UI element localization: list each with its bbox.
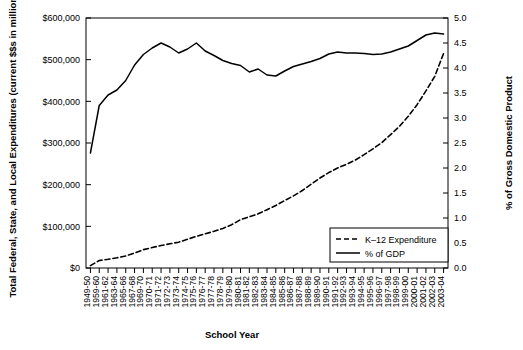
y2-tick-label: 5.0: [454, 13, 467, 23]
y2-tick-label: 0.0: [454, 263, 467, 273]
x-axis-tick-labels: 1949-501959-601961-621963-641965-661967-…: [82, 276, 445, 308]
y2-tick-label: 3.5: [454, 88, 467, 98]
x-axis-title: School Year: [205, 329, 260, 340]
y2-tick-label: 0.5: [454, 238, 467, 248]
y2-tick-label: 1.0: [454, 213, 467, 223]
y-tick-label: $500,000: [42, 55, 80, 65]
y-axis-ticks: [86, 18, 91, 268]
y2-tick-label: 3.0: [454, 113, 467, 123]
legend-label-gdp: % of GDP: [365, 249, 405, 259]
x-tick-label: 2003-04: [436, 276, 446, 308]
y2-axis-title: % of Gross Domestic Product: [503, 75, 514, 210]
legend-label-k12: K–12 Expenditure: [365, 235, 437, 245]
y2-tick-label: 1.5: [454, 188, 467, 198]
y-tick-label: $200,000: [42, 180, 80, 190]
y-tick-label: $300,000: [42, 138, 80, 148]
y-axis-title: Total Federal, State, and Local Expendit…: [7, 0, 18, 298]
y2-axis-tick-labels: 5.04.54.03.53.02.52.01.51.00.50.0: [454, 13, 467, 273]
y-axis-tick-labels: $600,000$500,000$400,000$300,000$200,000…: [42, 13, 80, 273]
y-tick-label: $600,000: [42, 13, 80, 23]
y2-tick-label: 2.0: [454, 163, 467, 173]
chart-figure: $600,000$500,000$400,000$300,000$200,000…: [0, 0, 523, 350]
chart-canvas: $600,000$500,000$400,000$300,000$200,000…: [0, 0, 523, 350]
y2-tick-label: 4.5: [454, 38, 467, 48]
y-tick-label: $100,000: [42, 222, 80, 232]
chart-legend[interactable]: K–12 Expenditure % of GDP: [330, 228, 448, 262]
y2-tick-label: 4.0: [454, 63, 467, 73]
y-tick-label: $0: [70, 263, 80, 273]
x-axis-ticks: [90, 268, 443, 273]
y2-tick-label: 2.5: [454, 138, 467, 148]
y-tick-label: $400,000: [42, 97, 80, 107]
